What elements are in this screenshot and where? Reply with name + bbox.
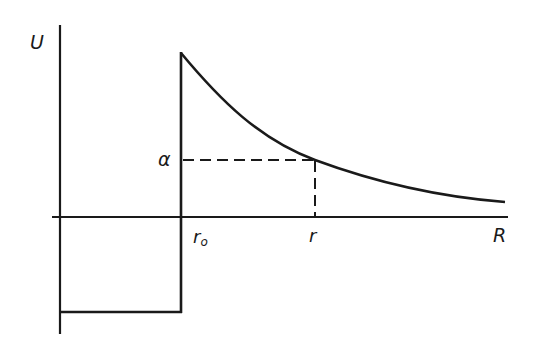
- r0-label: ro: [193, 226, 208, 249]
- diagram-canvas: U R α ro r: [0, 0, 539, 349]
- alpha-label: α: [158, 148, 171, 170]
- r0-label-subscript: o: [200, 235, 207, 249]
- r-label: r: [309, 225, 318, 246]
- coulomb-curve: [181, 53, 505, 202]
- potential-diagram: U R α ro r: [0, 0, 539, 349]
- x-axis-label: R: [493, 224, 506, 246]
- y-axis-label: U: [30, 31, 44, 53]
